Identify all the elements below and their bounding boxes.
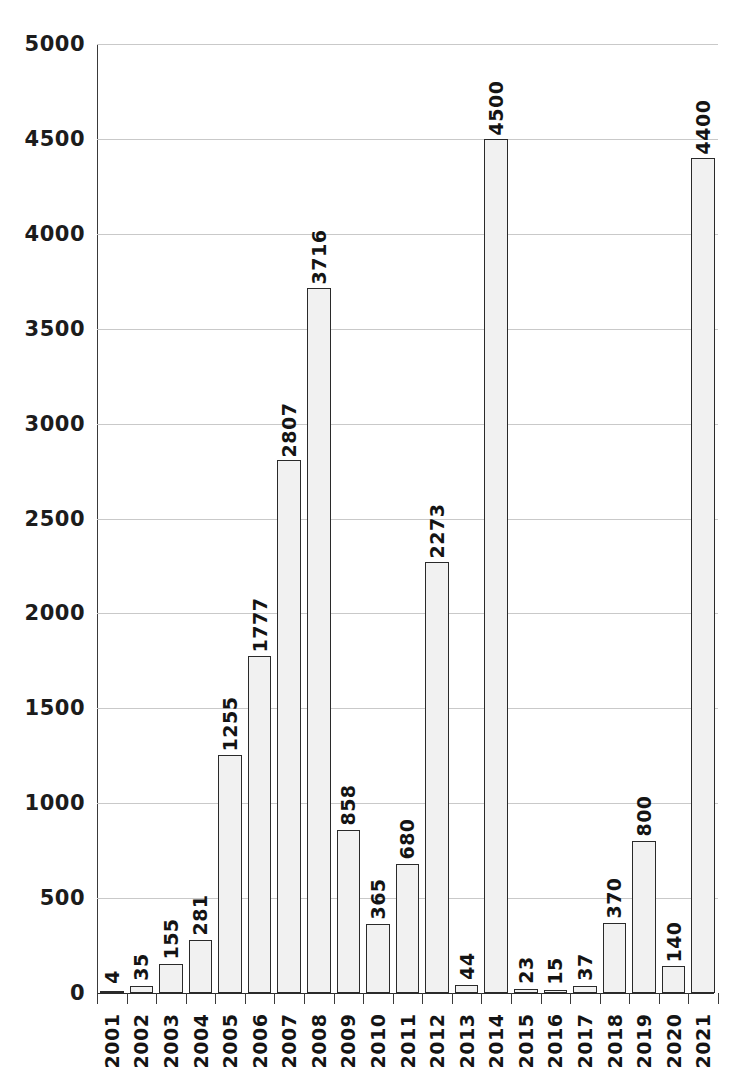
x-tick-label: 2015	[515, 1014, 537, 1069]
bar-value-label: 3716	[308, 230, 330, 285]
bar-value-label: 44	[456, 952, 478, 979]
bar-slot: 23	[511, 44, 541, 993]
bar-slot: 281	[186, 44, 216, 993]
y-tick-label: 2500	[25, 507, 85, 531]
bar-slot: 37	[570, 44, 600, 993]
bar-value-label: 23	[515, 956, 537, 983]
x-tick-label: 2002	[130, 1014, 152, 1069]
bar[interactable]	[218, 755, 242, 993]
x-tick-label: 2014	[485, 1014, 507, 1069]
bar[interactable]	[662, 966, 686, 993]
x-tick-label: 2006	[249, 1014, 271, 1069]
bar[interactable]	[632, 841, 656, 993]
x-axis-labels: 2001200220032004200520062007200820092010…	[97, 1000, 718, 1072]
x-tick-label: 2013	[456, 1014, 478, 1069]
bar[interactable]	[484, 139, 508, 993]
y-axis-labels: 0500100015002000250030003500400045005000	[0, 0, 97, 1077]
clipped-top-caption	[0, 0, 731, 10]
x-tick-label: 2012	[426, 1014, 448, 1069]
x-tick-label: 2011	[397, 1014, 419, 1069]
bar[interactable]	[130, 986, 154, 993]
bar-value-label: 140	[663, 921, 685, 962]
bar-slot: 1777	[245, 44, 275, 993]
bar[interactable]	[603, 923, 627, 993]
bar[interactable]	[425, 562, 449, 993]
y-tick-label: 3500	[25, 317, 85, 341]
bar-value-label: 1255	[219, 697, 241, 752]
bar-slot: 35	[127, 44, 157, 993]
x-tick-label: 2020	[663, 1014, 685, 1069]
bar-value-label: 680	[396, 818, 418, 859]
y-tick-label: 0	[70, 981, 85, 1005]
bar[interactable]	[396, 864, 420, 993]
x-tick-label: 2018	[604, 1014, 626, 1069]
bar[interactable]	[691, 158, 715, 993]
x-tick-label: 2008	[308, 1014, 330, 1069]
bar-value-label: 4400	[692, 100, 714, 155]
y-tick-label: 4500	[25, 127, 85, 151]
bar-value-label: 365	[367, 878, 389, 919]
bar-series: 4351552811255177728073716858365680227344…	[97, 44, 718, 993]
bar-slot: 4	[97, 44, 127, 993]
bar-value-label: 800	[633, 796, 655, 837]
x-tick-label: 2021	[692, 1014, 714, 1069]
bar-slot: 44	[452, 44, 482, 993]
bar[interactable]	[277, 460, 301, 993]
bar-slot: 15	[541, 44, 571, 993]
bar-value-label: 15	[544, 957, 566, 984]
x-tick-label: 2007	[278, 1014, 300, 1069]
x-tick-label: 2016	[544, 1014, 566, 1069]
bar[interactable]	[455, 985, 479, 993]
x-tick-label: 2001	[101, 1014, 123, 1069]
y-tick-label: 4000	[25, 222, 85, 246]
y-tick-label: 1000	[25, 791, 85, 815]
bar-slot: 365	[363, 44, 393, 993]
y-tick-label: 1500	[25, 696, 85, 720]
bar-slot: 140	[659, 44, 689, 993]
bar-slot: 680	[393, 44, 423, 993]
y-tick-label: 3000	[25, 412, 85, 436]
bar-chart: 0500100015002000250030003500400045005000…	[0, 0, 731, 1077]
y-tick-label: 500	[40, 886, 85, 910]
bar-slot: 3716	[304, 44, 334, 993]
x-tick-label: 2019	[633, 1014, 655, 1069]
bar[interactable]	[337, 830, 361, 993]
x-tick-label: 2004	[190, 1014, 212, 1069]
x-tick-label: 2005	[219, 1014, 241, 1069]
bar[interactable]	[159, 964, 183, 993]
bar-value-label: 1777	[249, 598, 271, 653]
bar-slot: 2273	[422, 44, 452, 993]
x-tick-label: 2009	[337, 1014, 359, 1069]
bar-value-label: 281	[189, 894, 211, 935]
bar[interactable]	[366, 924, 390, 993]
x-tick-label: 2017	[574, 1014, 596, 1069]
bar-slot: 155	[156, 44, 186, 993]
bar-value-label: 155	[160, 918, 182, 959]
y-tick-label: 2000	[25, 601, 85, 625]
bar-value-label: 370	[603, 877, 625, 918]
bar-value-label: 2273	[426, 504, 448, 559]
bar-slot: 1255	[215, 44, 245, 993]
bar[interactable]	[573, 986, 597, 993]
bar-slot: 4400	[688, 44, 718, 993]
bar-value-label: 2807	[278, 402, 300, 457]
y-tick-label: 5000	[25, 32, 85, 56]
x-tick-mark	[718, 993, 719, 1004]
bar-slot: 4500	[481, 44, 511, 993]
bar-value-label: 35	[130, 954, 152, 981]
bar-slot: 370	[600, 44, 630, 993]
bar-value-label: 4500	[485, 81, 507, 136]
bar-slot: 2807	[274, 44, 304, 993]
bar-slot: 800	[629, 44, 659, 993]
bar-value-label: 858	[337, 785, 359, 826]
plot-area: 4351552811255177728073716858365680227344…	[97, 44, 718, 993]
bar[interactable]	[189, 940, 213, 993]
x-tick-label: 2003	[160, 1014, 182, 1069]
bar[interactable]	[248, 656, 272, 993]
bar-slot: 858	[334, 44, 364, 993]
bar[interactable]	[307, 288, 331, 993]
bar-value-label: 37	[574, 953, 596, 980]
x-tick-label: 2010	[367, 1014, 389, 1069]
bar-value-label: 4	[101, 970, 123, 984]
